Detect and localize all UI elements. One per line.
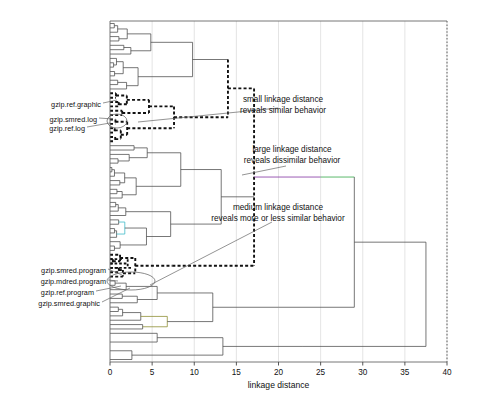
leaf-label-lower-1: gzip.mdred.program xyxy=(41,277,106,286)
dendrogram-figure: 0510152025303540linkage distancegzip.ref… xyxy=(0,0,477,405)
xtick-label-25: 25 xyxy=(316,368,326,377)
annotation-large-leader xyxy=(242,166,286,175)
annotation-medium-line-1: reveals more or less similar behavior xyxy=(211,214,345,223)
leaf-label-lower-3-leader xyxy=(102,288,130,302)
annotation-large-line-0: large linkage distance xyxy=(252,145,332,154)
xtick-label-10: 10 xyxy=(190,368,200,377)
annotation-small-line-1: reveals similar behavior xyxy=(240,106,326,115)
xtick-label-30: 30 xyxy=(358,368,368,377)
leaf-label-lower-2: gzip.ref.program xyxy=(41,288,94,297)
leaf-label-upper-1-leader xyxy=(99,118,113,119)
xtick-label-40: 40 xyxy=(442,368,452,377)
annotation-medium-leader xyxy=(150,222,272,285)
leaf-label-upper-1: gzip.smred.log xyxy=(50,115,97,124)
annotation-medium-line-0: medium linkage distance xyxy=(233,203,324,212)
xtick-label-20: 20 xyxy=(274,368,284,377)
dendrogram-svg: 0510152025303540linkage distancegzip.ref… xyxy=(0,0,477,405)
xtick-label-5: 5 xyxy=(150,368,155,377)
leaf-label-upper-2: gzip.ref.log xyxy=(49,124,85,133)
leaf-label-lower-3: gzip.smred.graphic xyxy=(38,299,100,308)
leaf-label-upper-0: gzip.ref.graphic xyxy=(51,100,101,109)
xtick-label-0: 0 xyxy=(108,368,113,377)
leaf-label-lower-0: gzip.smred.program xyxy=(41,266,106,275)
annotation-large-line-1: reveals dissimilar behavior xyxy=(244,156,341,165)
x-axis-title: linkage distance xyxy=(248,380,310,390)
xtick-label-15: 15 xyxy=(232,368,242,377)
leaf-label-lower-1-leader xyxy=(108,280,118,281)
annotation-small-line-0: small linkage distance xyxy=(243,95,324,104)
xtick-label-35: 35 xyxy=(400,368,410,377)
